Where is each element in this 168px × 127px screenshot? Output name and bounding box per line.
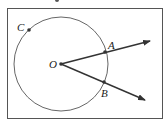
point-O — [59, 62, 63, 66]
point-B — [102, 80, 106, 84]
geometry-diagram: O A B C — [0, 0, 168, 127]
diagram-frame — [8, 9, 163, 119]
label-O: O — [49, 58, 57, 70]
point-C — [27, 28, 31, 32]
label-C: C — [17, 21, 25, 33]
label-B: B — [101, 87, 108, 99]
label-A: A — [107, 39, 115, 51]
clipped-point — [55, 0, 59, 2]
point-A — [103, 50, 107, 54]
